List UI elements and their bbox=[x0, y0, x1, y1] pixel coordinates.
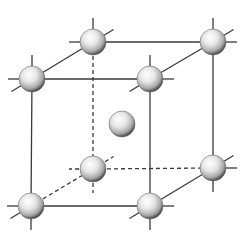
atom-back-top-left bbox=[80, 29, 106, 55]
atom-back-bottom-right bbox=[200, 155, 226, 181]
atom-front-bottom-right bbox=[137, 193, 163, 219]
atoms bbox=[18, 29, 226, 219]
edge-back-bottom-left-to-back-bottom-right bbox=[93, 168, 213, 169]
atom-front-top-left bbox=[19, 66, 45, 92]
atom-center bbox=[109, 111, 135, 137]
atom-back-bottom-left bbox=[80, 156, 106, 182]
edge-front-top-left-to-front-bottom-left bbox=[31, 79, 32, 206]
atom-front-bottom-left bbox=[18, 193, 44, 219]
bcc-unit-cell-diagram bbox=[0, 0, 244, 247]
atom-back-top-right bbox=[200, 29, 226, 55]
atom-front-top-right bbox=[137, 66, 163, 92]
